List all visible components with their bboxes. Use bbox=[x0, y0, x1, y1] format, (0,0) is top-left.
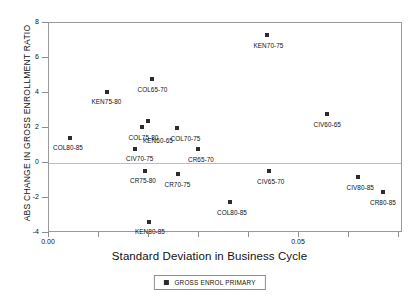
x-tick bbox=[348, 232, 349, 237]
y-tick-label: 8 bbox=[24, 18, 39, 25]
data-point bbox=[267, 169, 271, 173]
x-tick-label: 0.05 bbox=[278, 238, 318, 245]
data-point-label: CIV65-70 bbox=[257, 178, 284, 185]
data-point bbox=[176, 172, 180, 176]
data-point bbox=[175, 126, 179, 130]
x-axis-title: Standard Deviation in Business Cycle bbox=[0, 250, 419, 262]
x-tick bbox=[398, 232, 399, 237]
data-point-label: KEN80-85 bbox=[135, 228, 165, 235]
data-point bbox=[228, 200, 232, 204]
data-point-label: KEN75-80 bbox=[92, 98, 122, 105]
data-point-label: CR75-80 bbox=[130, 177, 156, 184]
data-point bbox=[147, 220, 151, 224]
data-point bbox=[150, 77, 154, 81]
x-tick bbox=[248, 232, 249, 237]
zero-reference-line bbox=[49, 163, 401, 164]
x-tick bbox=[298, 232, 299, 237]
plot-area: COL80-85KEN75-80COL65-70COL75-80KEN60-65… bbox=[48, 22, 402, 232]
data-point bbox=[143, 169, 147, 173]
data-point bbox=[325, 112, 329, 116]
data-point bbox=[381, 190, 385, 194]
x-tick bbox=[198, 232, 199, 237]
data-point-label: KEN70-75 bbox=[254, 42, 284, 49]
data-point-label: KEN60-65 bbox=[143, 137, 173, 144]
data-point-label: COL65-70 bbox=[138, 86, 168, 93]
data-point bbox=[196, 147, 200, 151]
data-point bbox=[133, 147, 137, 151]
y-tick-label: -4 bbox=[24, 228, 39, 235]
scatter-plot-figure: ABS CHANGE IN GROSS ENROLLMENT RATIO -4-… bbox=[0, 0, 419, 306]
data-point-label: COL70-75 bbox=[171, 135, 201, 142]
data-point-label: COL80-85 bbox=[53, 144, 83, 151]
data-point bbox=[105, 90, 109, 94]
y-tick-label: 0 bbox=[24, 158, 39, 165]
data-point-label: CIV60-65 bbox=[314, 121, 341, 128]
legend: GROSS ENROL PRIMARY bbox=[153, 275, 265, 290]
y-tick-label: 6 bbox=[24, 53, 39, 60]
data-point-label: CR80-85 bbox=[370, 199, 396, 206]
data-point bbox=[68, 136, 72, 140]
x-tick bbox=[98, 232, 99, 237]
data-point bbox=[265, 33, 269, 37]
data-point bbox=[140, 125, 144, 129]
data-point-label: COL80-85 bbox=[217, 209, 247, 216]
data-point bbox=[146, 119, 150, 123]
legend-swatch-icon bbox=[163, 280, 168, 285]
legend-label: GROSS ENROL PRIMARY bbox=[174, 279, 255, 286]
y-tick-label: 4 bbox=[24, 88, 39, 95]
y-tick-label: 2 bbox=[24, 123, 39, 130]
data-point-label: CR70-75 bbox=[165, 181, 191, 188]
x-tick bbox=[148, 232, 149, 237]
data-point bbox=[356, 175, 360, 179]
data-point-label: CR65-70 bbox=[188, 156, 214, 163]
x-tick bbox=[48, 232, 49, 237]
x-tick-label: 0.00 bbox=[28, 238, 68, 245]
y-tick-label: -2 bbox=[24, 193, 39, 200]
data-point-label: CIV70-75 bbox=[126, 155, 153, 162]
data-point-label: CIV80-85 bbox=[347, 184, 374, 191]
